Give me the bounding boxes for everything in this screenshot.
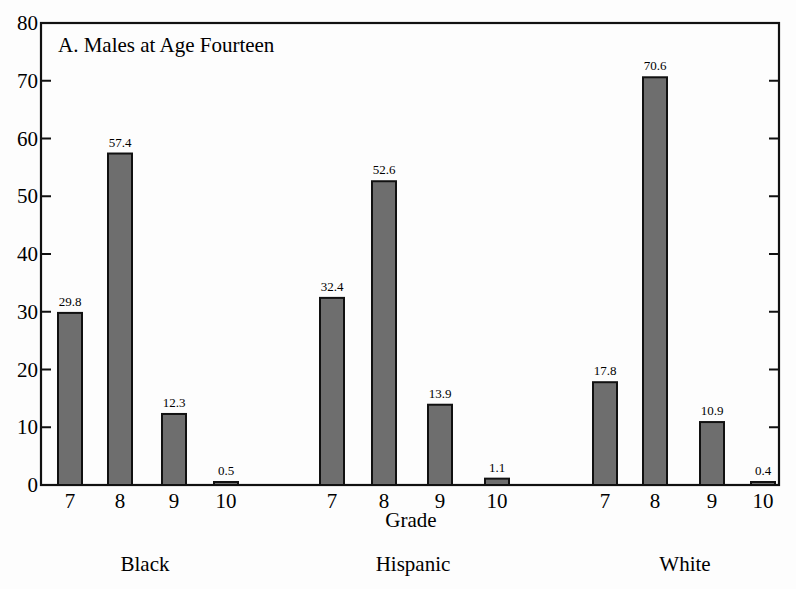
- chart-title: A. Males at Age Fourteen: [58, 33, 275, 57]
- bar-value-label: 70.6: [644, 58, 667, 73]
- bar: [162, 414, 186, 485]
- bar: [593, 382, 617, 485]
- group-label-hispanic: Hispanic: [376, 552, 451, 576]
- group-labels: BlackHispanicWhite: [121, 552, 711, 576]
- bar-group-hispanic: 32.452.613.91.1: [320, 162, 509, 485]
- bar-value-label: 32.4: [321, 279, 344, 294]
- y-tick-label: 60: [17, 127, 38, 151]
- y-tick-label: 80: [17, 11, 38, 35]
- x-tick-label: 7: [600, 489, 611, 513]
- y-tick-label: 20: [17, 358, 38, 382]
- x-tick-label: 9: [169, 489, 180, 513]
- x-tick-label: 10: [216, 489, 237, 513]
- x-tick-label: 10: [487, 489, 508, 513]
- bar: [372, 181, 396, 485]
- bar: [643, 77, 667, 485]
- y-tick-label: 70: [17, 69, 38, 93]
- bar-value-label: 17.8: [594, 363, 617, 378]
- group-label-white: White: [659, 552, 710, 576]
- bar-value-label: 12.3: [163, 395, 186, 410]
- bar: [108, 154, 132, 485]
- bar-chart: 01020304050607080 29.857.412.30.532.452.…: [0, 0, 796, 589]
- group-label-black: Black: [121, 552, 170, 576]
- x-tick-label: 8: [115, 489, 126, 513]
- bars: 29.857.412.30.532.452.613.91.117.870.610…: [58, 58, 775, 485]
- bar: [214, 482, 238, 485]
- bar-value-label: 29.8: [59, 294, 82, 309]
- x-tick-label: 9: [707, 489, 718, 513]
- x-tick-label: 8: [650, 489, 661, 513]
- plot-border: [41, 23, 779, 485]
- bar: [58, 313, 82, 485]
- y-tick-label: 0: [28, 473, 39, 497]
- y-tick-label: 10: [17, 415, 38, 439]
- bar: [700, 422, 724, 485]
- y-tick-label: 50: [17, 184, 38, 208]
- bar-value-label: 13.9: [429, 386, 452, 401]
- bar: [428, 405, 452, 485]
- bar-group-white: 17.870.610.90.4: [593, 58, 775, 485]
- bar: [320, 298, 344, 485]
- x-tick-label: 7: [65, 489, 76, 513]
- x-tick-label: 7: [327, 489, 338, 513]
- y-tick-label: 30: [17, 300, 38, 324]
- bar-value-label: 0.5: [218, 463, 234, 478]
- bar-group-black: 29.857.412.30.5: [58, 135, 238, 485]
- x-axis-label: Grade: [385, 508, 436, 532]
- bar: [751, 482, 775, 485]
- x-tick-label: 10: [753, 489, 774, 513]
- y-tick-label: 40: [17, 242, 38, 266]
- bar-value-label: 57.4: [109, 135, 132, 150]
- bar-value-label: 10.9: [701, 403, 724, 418]
- bar: [485, 479, 509, 485]
- plot-frame: [41, 23, 779, 485]
- bar-value-label: 52.6: [373, 162, 396, 177]
- bar-value-label: 1.1: [489, 460, 505, 475]
- bar-value-label: 0.4: [755, 463, 772, 478]
